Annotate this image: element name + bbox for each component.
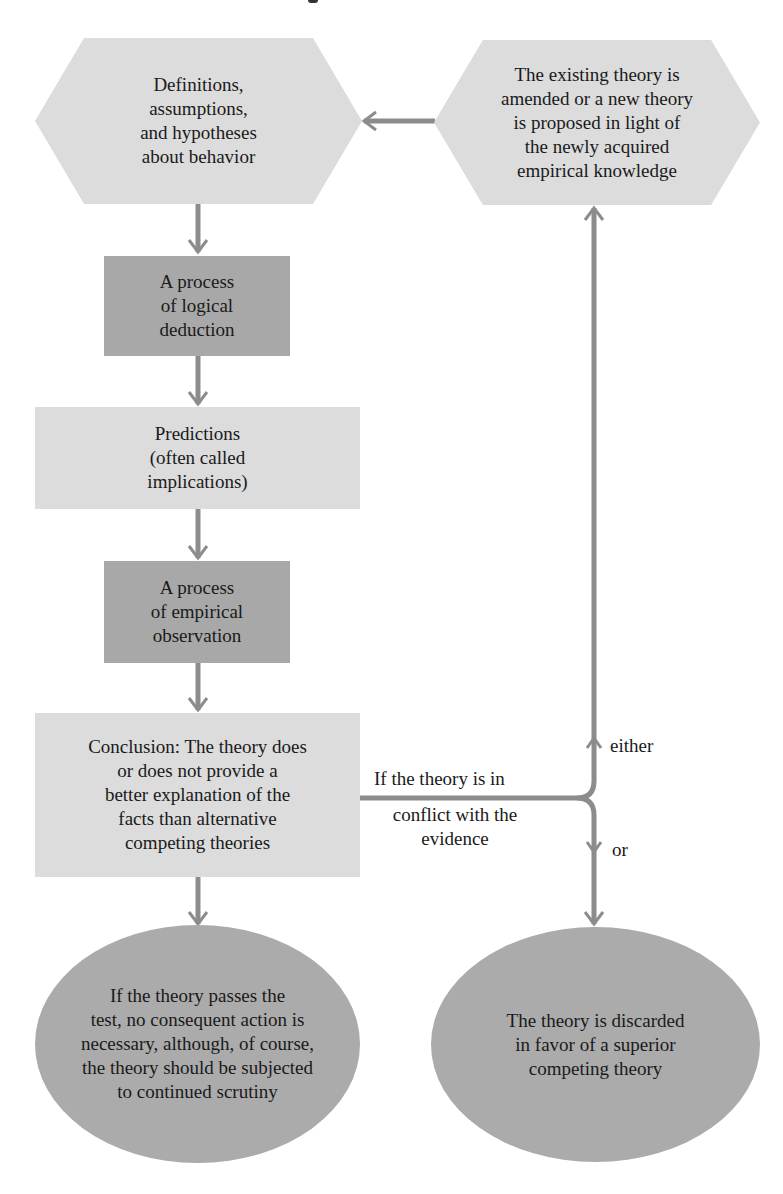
node-hypotheses: Definitions, assumptions, and hypotheses… bbox=[35, 38, 362, 204]
node-conclusion-text: Conclusion: The theory does or does not … bbox=[88, 735, 307, 855]
node-discarded: The theory is discarded in favor of a su… bbox=[431, 927, 760, 1162]
node-logical-deduction: A process of logical deduction bbox=[104, 256, 290, 356]
node-passes-test: If the theory passes the test, no conseq… bbox=[35, 925, 360, 1163]
node-predictions-text: Predictions (often called implications) bbox=[147, 422, 247, 494]
edge-label-conflict-above: If the theory is in bbox=[374, 767, 505, 791]
node-amended-theory: The existing theory is amended or a new … bbox=[434, 40, 760, 205]
edge-label-conflict-below: conflict with the evidence bbox=[374, 803, 536, 851]
node-conclusion: Conclusion: The theory does or does not … bbox=[35, 713, 360, 877]
node-empirical-observation-text: A process of empirical observation bbox=[151, 576, 243, 648]
node-passes-test-text: If the theory passes the test, no conseq… bbox=[81, 984, 314, 1104]
node-amended-theory-text: The existing theory is amended or a new … bbox=[501, 63, 693, 183]
node-logical-deduction-text: A process of logical deduction bbox=[160, 270, 235, 342]
node-predictions: Predictions (often called implications) bbox=[35, 407, 360, 509]
node-empirical-observation: A process of empirical observation bbox=[104, 561, 290, 663]
edge-label-either: either bbox=[610, 734, 653, 758]
node-hypotheses-text: Definitions, assumptions, and hypotheses… bbox=[140, 73, 257, 169]
edge-label-or: or bbox=[612, 838, 628, 862]
node-discarded-text: The theory is discarded in favor of a su… bbox=[507, 1009, 685, 1081]
